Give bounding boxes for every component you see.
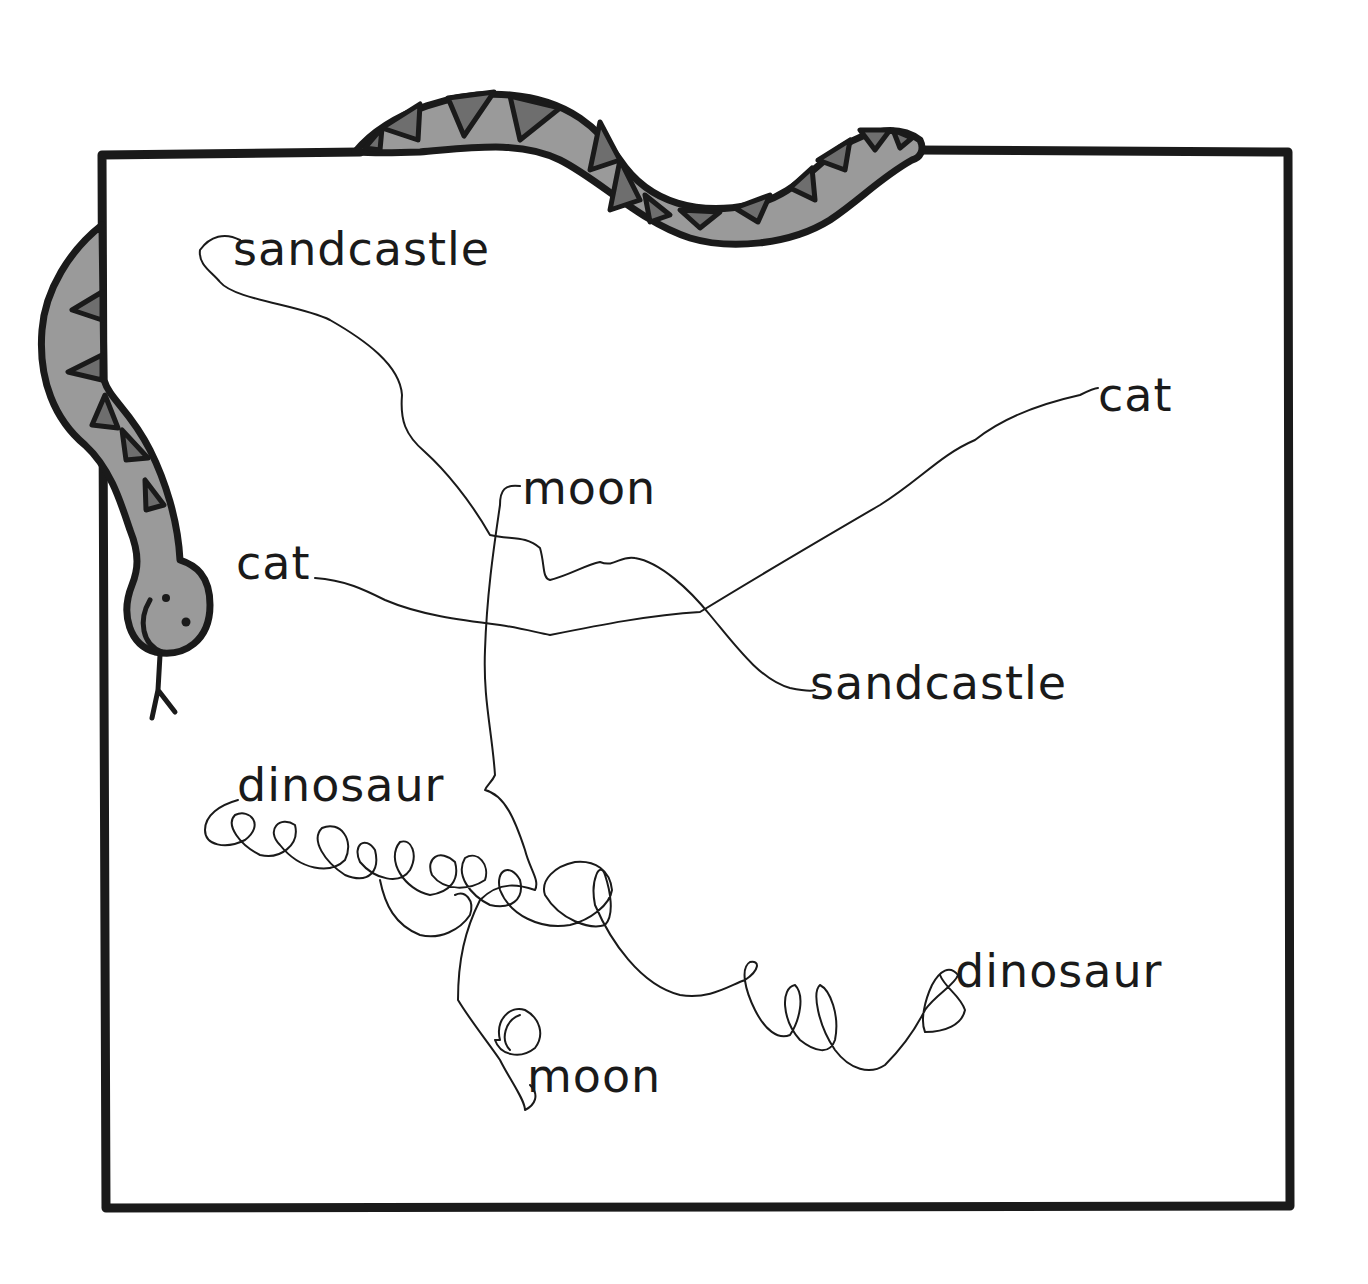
line-moon <box>458 486 536 1110</box>
worksheet-frame <box>102 150 1290 1208</box>
line-sandcastle <box>200 236 815 691</box>
word-cat-right: cat <box>1098 372 1173 418</box>
line-dinosaur <box>205 800 965 1070</box>
word-moon-top: moon <box>522 465 656 511</box>
line-cat <box>315 388 1098 635</box>
word-cat-left: cat <box>236 540 311 586</box>
word-sandcastle-right: sandcastle <box>810 660 1067 706</box>
word-dinosaur-left: dinosaur <box>237 762 445 808</box>
word-sandcastle-left: sandcastle <box>233 226 490 272</box>
word-dinosaur-right: dinosaur <box>955 948 1163 994</box>
snake-left-icon <box>41 225 210 718</box>
worksheet-drawing <box>0 0 1368 1284</box>
word-moon-bottom: moon <box>527 1053 661 1099</box>
